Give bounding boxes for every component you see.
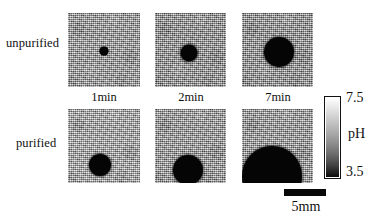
acid-spot	[264, 37, 294, 67]
acid-spot	[89, 154, 111, 176]
scalebar-label: 5mm	[278, 199, 334, 215]
acid-spot	[181, 44, 198, 61]
panel-purified-1min	[68, 109, 140, 183]
colorbar-gradient	[326, 98, 339, 177]
time-label-7min: 7min	[242, 90, 314, 105]
time-label-2min: 2min	[155, 90, 227, 105]
panel-purified-7min	[242, 109, 313, 183]
time-label-1min: 1min	[68, 90, 140, 105]
colorbar-min-label: 3.5	[346, 164, 364, 180]
scalebar-line	[284, 189, 326, 196]
figure-root: unpurified purified 1min 2min 7min 7.5 3…	[0, 0, 385, 219]
panel-purified-2min	[155, 109, 226, 183]
panel-unpurified-2min	[155, 13, 226, 87]
colorbar-title: pH	[348, 126, 365, 142]
acid-spot	[100, 47, 109, 56]
colorbar-max-label: 7.5	[346, 90, 364, 106]
acid-spot	[173, 155, 203, 183]
panel-unpurified-1min	[68, 13, 140, 87]
colorbar	[324, 96, 341, 179]
row-label-purified: purified	[16, 136, 56, 151]
row-label-unpurified: unpurified	[6, 36, 59, 51]
panel-unpurified-7min	[242, 13, 313, 87]
